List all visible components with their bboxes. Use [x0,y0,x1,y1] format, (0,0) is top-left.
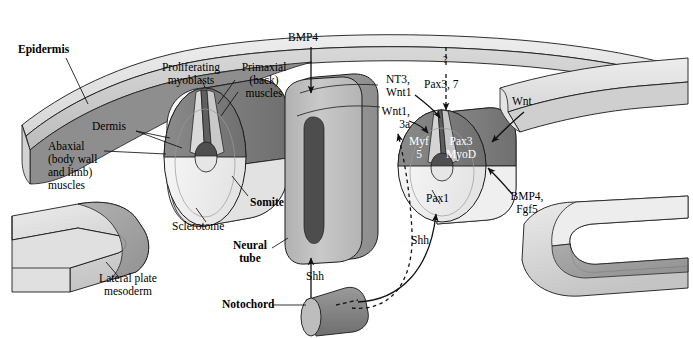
leader-abaxial [104,151,166,154]
label-primaxial-muscles: Primaxial (back) muscles [234,61,294,100]
label-somite: Somite [250,196,284,209]
label-neural-tube: Neural tube [228,239,272,265]
label-pax3-myod: Pax3 MyoD [442,135,480,161]
label-abaxial-muscles: Abaxial (body wall and limb) muscles [48,140,98,192]
label-pax1: Pax1 [426,192,449,205]
neural-tube [285,74,380,264]
label-nt3-wnt1: NT3, Wnt1 [386,73,412,99]
label-bmp4-top: BMP4 [288,31,318,44]
label-epidermis: Epidermis [18,43,69,56]
label-myf5: Myf 5 [406,135,432,161]
label-pax3-7: Pax3, 7 [424,78,459,91]
label-shh-vertical: Shh [306,270,324,283]
label-question-mark: ? [443,54,447,65]
label-bmp4-fgf5: BMP4, Fgf5 [504,190,550,216]
label-shh-curved: Shh [411,234,429,247]
label-wnt1-3a: Wnt1, 3a [374,105,410,131]
label-sclerotome: Sclerotome [172,220,224,233]
label-dermis: Dermis [92,120,126,133]
right-somite [398,108,516,224]
label-proliferating-myoblasts: Proliferating myoblasts [152,61,230,87]
somite-patterning-figure: Epidermis Proliferating myoblasts Primax… [0,0,693,338]
label-lateral-plate-mesoderm: Lateral plate mesoderm [80,272,176,298]
label-notochord: Notochord [222,298,274,311]
label-wnt-right: Wnt [512,95,532,108]
